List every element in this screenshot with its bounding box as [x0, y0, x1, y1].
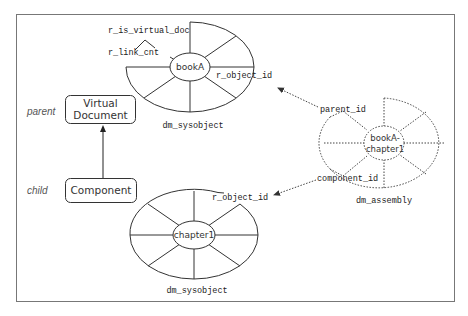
- child-role-label: child: [27, 185, 48, 196]
- attr-r-is-virtual-doc: r_is_virtual_doc: [108, 26, 190, 36]
- chapter1-caption: dm_sysobject: [166, 286, 227, 296]
- bookA-label: bookA: [176, 62, 205, 72]
- diagram-frame: [17, 15, 455, 302]
- virtual-document-box: Virtual Document: [66, 96, 136, 124]
- parent-role-label: parent: [26, 106, 57, 117]
- attr-parent-id: parent_id: [320, 105, 366, 115]
- parent-id-to-bookA-arrow: [278, 88, 318, 107]
- virtual-document-label-line2: Document: [73, 109, 127, 121]
- bookA-caption: dm_sysobject: [162, 121, 223, 131]
- component-box: Component: [66, 179, 137, 203]
- virtual-document-label-line1: Virtual: [83, 97, 117, 109]
- bookA-chapter1-assembly: bookA- chapter1 parent_id component_id d…: [317, 98, 444, 206]
- chapter1-sysobject: chapter1 r_object_id dm_sysobject: [130, 189, 268, 296]
- component-id-to-chapter1-arrow: [274, 180, 316, 195]
- virtual-document-diagram: parent child Virtual Document Component …: [0, 0, 468, 316]
- assembly-caption: dm_assembly: [356, 196, 412, 206]
- assembly-label-line1: bookA-: [370, 133, 399, 143]
- chapter1-label: chapter1: [174, 230, 214, 240]
- attr-component-id: component_id: [317, 174, 378, 184]
- attr-r-object-id-bookA: r_object_id: [216, 71, 272, 81]
- assembly-label-line2: chapter1: [366, 144, 404, 154]
- component-label: Component: [71, 184, 132, 196]
- attr-r-object-id-chapter1: r_object_id: [212, 193, 268, 203]
- attr-r-link-cnt: r_link_cnt: [108, 48, 159, 58]
